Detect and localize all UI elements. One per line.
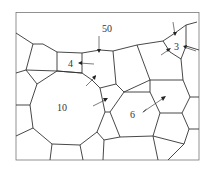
arrow-head-icon — [161, 96, 166, 101]
label-grain-6: 6 — [130, 109, 135, 120]
grain-boundaries — [16, 22, 199, 160]
grain-labels: 50 4 3 10 6 — [57, 23, 179, 120]
migration-arrows — [78, 22, 196, 113]
grain-structure-diagram: 50 4 3 10 6 — [0, 0, 213, 170]
arrow-head-icon — [97, 49, 101, 53]
label-grain-4: 4 — [68, 58, 73, 69]
label-grain-3: 3 — [174, 41, 179, 52]
double-arrow-icon — [143, 97, 165, 112]
arrow-head-icon — [142, 108, 147, 113]
arrow-head-icon — [103, 98, 108, 102]
label-grain-50: 50 — [102, 23, 112, 34]
label-grain-10: 10 — [57, 102, 67, 113]
arrow-head-icon — [78, 61, 82, 65]
